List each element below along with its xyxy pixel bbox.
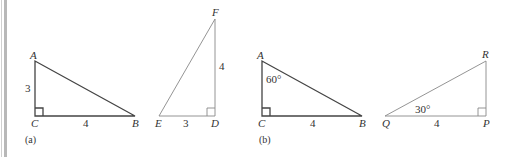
vertex-label-p: P bbox=[482, 117, 490, 129]
right-angle-marker-c-b bbox=[262, 108, 270, 116]
right-angle-marker-p bbox=[478, 108, 486, 116]
vertex-label-b: B bbox=[132, 117, 139, 129]
vertex-label-f: F bbox=[211, 6, 219, 18]
triangle-b-qpr: R Q P 30° 4 bbox=[382, 48, 490, 129]
right-angle-marker-c bbox=[35, 108, 43, 116]
right-angle-marker-d bbox=[207, 108, 215, 116]
vertex-label-d: D bbox=[210, 117, 219, 129]
triangle-a-abc: A C B 3 4 bbox=[25, 49, 139, 129]
caption-a: (a) bbox=[25, 134, 36, 146]
angle-label-q: 30° bbox=[415, 103, 430, 115]
vertex-label-c-b: C bbox=[258, 117, 266, 129]
vertex-label-a: A bbox=[29, 49, 37, 61]
vertex-label-a-b: A bbox=[256, 49, 264, 61]
side-label-df: 4 bbox=[219, 60, 225, 72]
side-label-ac: 3 bbox=[25, 82, 31, 94]
vertex-label-c: C bbox=[31, 117, 39, 129]
side-label-ed: 3 bbox=[183, 117, 189, 129]
vertex-label-r: R bbox=[481, 48, 489, 60]
side-label-qp: 4 bbox=[434, 117, 440, 129]
triangle-b-abc: A C B 60° 4 bbox=[256, 49, 366, 129]
triangles-diagram: A C B 3 4 F E D 3 4 (a) A C B 60° 4 R Q … bbox=[0, 0, 512, 157]
caption-b: (b) bbox=[259, 134, 271, 146]
side-label-cb-b: 4 bbox=[310, 117, 316, 129]
vertex-label-q: Q bbox=[382, 117, 390, 129]
vertex-label-b-b: B bbox=[359, 117, 366, 129]
vertex-label-e: E bbox=[154, 117, 162, 129]
triangle-a-edf: F E D 3 4 bbox=[154, 6, 225, 129]
side-label-cb: 4 bbox=[83, 117, 89, 129]
angle-label-a: 60° bbox=[266, 73, 281, 85]
